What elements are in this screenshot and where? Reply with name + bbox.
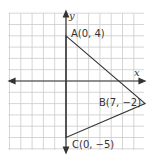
triangle-abc bbox=[66, 36, 145, 138]
point-b-label: B(7, −2) bbox=[99, 97, 141, 108]
y-axis-down-arrow-icon bbox=[64, 147, 69, 153]
x-axis-label: x bbox=[134, 67, 140, 78]
y-axis-up-arrow-icon bbox=[64, 11, 69, 17]
point-c-label: C(0, −5) bbox=[72, 139, 114, 150]
coordinate-plane: x y A(0, 4) B(7, −2) C(0, −5) bbox=[0, 0, 154, 160]
point-a-label: A(0, 4) bbox=[71, 28, 105, 39]
x-axis-right-arrow-icon bbox=[139, 79, 145, 84]
y-axis-label: y bbox=[68, 10, 75, 21]
